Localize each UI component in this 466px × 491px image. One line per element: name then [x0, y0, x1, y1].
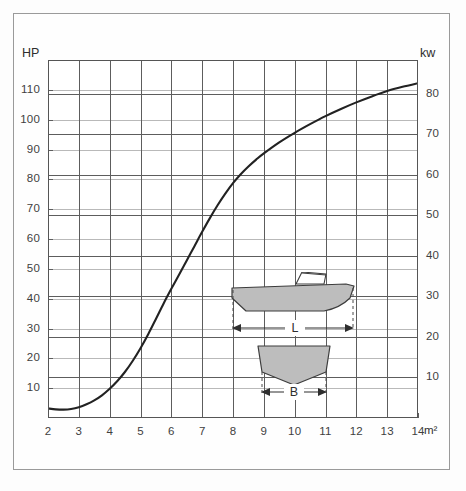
- x-tick-12: 12: [341, 425, 371, 437]
- y-tickmark-right-50: [413, 215, 418, 216]
- x-tickmark-10: [295, 413, 296, 418]
- y-tickmark-right-40: [413, 256, 418, 257]
- y-tick-left-60: 60: [6, 232, 40, 244]
- y-tick-left-90: 90: [6, 143, 40, 155]
- y-tick-right-10: 10: [426, 370, 460, 382]
- y-tick-left-40: 40: [6, 292, 40, 304]
- y-tick-right-40: 40: [426, 249, 460, 261]
- y-tickmark-left-80: [48, 179, 53, 180]
- y-tickmark-left-90: [48, 150, 53, 151]
- x-tick-14: 14: [403, 425, 433, 437]
- y-tick-left-10: 10: [6, 381, 40, 393]
- x-tickmark-11: [326, 413, 327, 418]
- y-tick-left-110: 110: [6, 83, 40, 95]
- gridline-x-5: [141, 60, 142, 418]
- y-tick-right-80: 80: [426, 87, 460, 99]
- y-tick-right-20: 20: [426, 330, 460, 342]
- boat-cross-section: [258, 346, 330, 385]
- y-tickmark-right-30: [413, 296, 418, 297]
- y-tickmark-right-60: [413, 175, 418, 176]
- x-tick-3: 3: [64, 425, 94, 437]
- x-tick-9: 9: [249, 425, 279, 437]
- y-tickmark-left-40: [48, 299, 53, 300]
- gridline-x-6: [171, 60, 172, 418]
- y-tickmark-right-70: [413, 134, 418, 135]
- y-tick-right-30: 30: [426, 289, 460, 301]
- y-tickmark-left-70: [48, 209, 53, 210]
- x-tickmark-8: [233, 413, 234, 418]
- x-tick-5: 5: [126, 425, 156, 437]
- y-tickmark-left-30: [48, 329, 53, 330]
- gridline-x-4: [110, 60, 111, 418]
- y-axis-unit-kw: kw: [420, 46, 435, 60]
- x-tickmark-7: [202, 413, 203, 418]
- y-tick-left-70: 70: [6, 202, 40, 214]
- x-tick-4: 4: [95, 425, 125, 437]
- y-axis-unit-hp: HP: [22, 46, 39, 60]
- y-tickmark-right-80: [413, 94, 418, 95]
- x-tickmark-6: [171, 413, 172, 418]
- x-tickmark-14: [418, 413, 419, 418]
- x-tick-13: 13: [372, 425, 402, 437]
- gridline-x-7: [202, 60, 203, 418]
- x-tick-11: 11: [311, 425, 341, 437]
- x-tickmark-2: [48, 413, 49, 418]
- x-tickmark-3: [79, 413, 80, 418]
- x-tick-2: 2: [33, 425, 63, 437]
- y-tick-left-80: 80: [6, 172, 40, 184]
- x-tickmark-12: [356, 413, 357, 418]
- y-tickmark-left-60: [48, 239, 53, 240]
- chart-page: HP kw m² L: [0, 0, 466, 491]
- y-tick-right-50: 50: [426, 208, 460, 220]
- y-tick-left-20: 20: [6, 351, 40, 363]
- y-tick-right-60: 60: [426, 168, 460, 180]
- x-tick-8: 8: [218, 425, 248, 437]
- beam-label: B: [290, 385, 298, 399]
- boat-side-view: [232, 272, 354, 311]
- y-tickmark-left-50: [48, 269, 53, 270]
- x-tick-7: 7: [187, 425, 217, 437]
- y-tickmark-right-10: [413, 377, 418, 378]
- x-tickmark-9: [264, 413, 265, 418]
- x-tickmark-13: [387, 413, 388, 418]
- y-tick-left-100: 100: [6, 113, 40, 125]
- y-tickmark-right-20: [413, 337, 418, 338]
- y-tickmark-left-100: [48, 120, 53, 121]
- y-tick-left-30: 30: [6, 322, 40, 334]
- y-tick-right-70: 70: [426, 127, 460, 139]
- x-tickmark-4: [110, 413, 111, 418]
- y-tick-left-50: 50: [6, 262, 40, 274]
- boat-dimension-inset: L B: [228, 272, 388, 404]
- y-tickmark-left-20: [48, 358, 53, 359]
- y-tickmark-left-10: [48, 388, 53, 389]
- x-tickmark-5: [141, 413, 142, 418]
- y-tickmark-left-110: [48, 90, 53, 91]
- gridline-x-3: [79, 60, 80, 418]
- x-tick-10: 10: [280, 425, 310, 437]
- length-label: L: [292, 321, 299, 335]
- x-tick-6: 6: [156, 425, 186, 437]
